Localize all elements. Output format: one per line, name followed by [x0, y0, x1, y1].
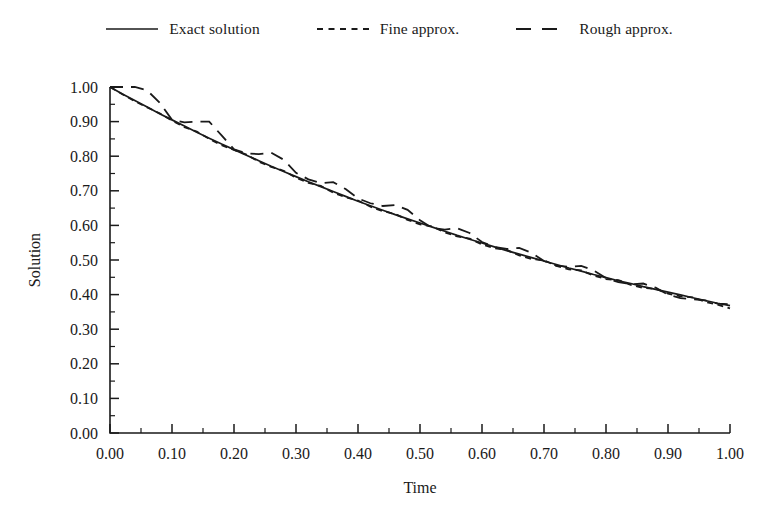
y-tick-label: 0.90: [70, 113, 98, 130]
series-fine-approx: [110, 87, 730, 308]
series-rough-approx: [110, 87, 730, 304]
x-tick-label: 0.80: [592, 445, 620, 462]
x-tick-label: 0.00: [96, 445, 124, 462]
y-tick-label: 0.30: [70, 321, 98, 338]
chart-canvas: 0.000.100.200.300.400.500.600.700.800.90…: [0, 0, 778, 521]
y-tick-label: 0.60: [70, 217, 98, 234]
chart-plot-area: 0.000.100.200.300.400.500.600.700.800.90…: [0, 0, 778, 521]
x-axis-tick-labels: 0.000.100.200.300.400.500.600.700.800.90…: [96, 445, 744, 462]
y-tick-label: 0.80: [70, 148, 98, 165]
x-axis-title: Time: [403, 479, 436, 496]
x-tick-label: 0.30: [282, 445, 310, 462]
x-axis-ticks: [110, 424, 730, 433]
y-tick-label: 0.20: [70, 355, 98, 372]
y-tick-label: 0.10: [70, 390, 98, 407]
x-tick-label: 1.00: [716, 445, 744, 462]
series-exact-solution: [110, 87, 730, 306]
x-tick-label: 0.10: [158, 445, 186, 462]
y-tick-label: 0.70: [70, 182, 98, 199]
x-tick-label: 0.50: [406, 445, 434, 462]
x-tick-label: 0.20: [220, 445, 248, 462]
y-tick-label: 0.40: [70, 286, 98, 303]
x-tick-label: 0.90: [654, 445, 682, 462]
y-tick-label: 1.00: [70, 79, 98, 96]
x-tick-label: 0.70: [530, 445, 558, 462]
y-axis-ticks: [110, 87, 119, 433]
axis-spines: [110, 87, 730, 433]
y-axis-tick-labels: 0.000.100.200.300.400.500.600.700.800.90…: [70, 79, 98, 442]
y-axis-title: Solution: [26, 233, 43, 287]
y-tick-label: 0.50: [70, 252, 98, 269]
y-tick-label: 0.00: [70, 425, 98, 442]
x-tick-label: 0.60: [468, 445, 496, 462]
x-tick-label: 0.40: [344, 445, 372, 462]
